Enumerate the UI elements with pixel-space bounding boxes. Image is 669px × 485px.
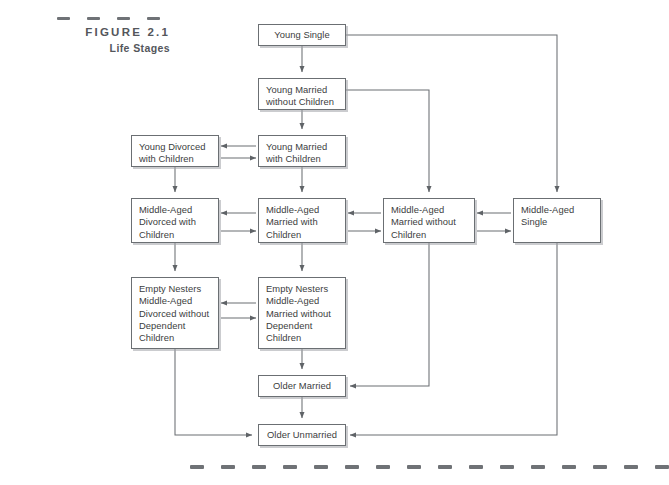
node-label-line: Middle-Aged <box>266 295 338 307</box>
edge-middle-aged-single-to-older-unmarried <box>350 243 557 435</box>
decorative-dash <box>500 465 514 469</box>
decorative-dash <box>283 465 297 469</box>
node-label-line: Divorced with <box>139 216 211 228</box>
decorative-dash <box>407 465 421 469</box>
node-middle-aged-divorced-with-children: Middle-AgedDivorced withChildren <box>131 198 219 243</box>
node-young-married-with-children: Young Marriedwith Children <box>258 135 346 167</box>
node-label-line: Dependent <box>139 320 211 332</box>
node-older-unmarried: Older Unmarried <box>258 424 346 446</box>
node-empty-nesters-divorced: Empty NestersMiddle-AgedDivorced without… <box>131 277 219 349</box>
node-label-line: Children <box>391 229 467 241</box>
node-label-line: with Children <box>139 153 211 165</box>
node-young-married-without-children: Young Marriedwithout Children <box>258 78 346 110</box>
node-label-line: with Children <box>266 153 338 165</box>
node-label-line: Middle-Aged <box>139 204 211 216</box>
node-label: Older Unmarried <box>267 429 337 441</box>
node-label-line: Married without <box>266 308 338 320</box>
node-young-divorced-with-children: Young Divorcedwith Children <box>131 135 219 167</box>
node-label-line: Young Married <box>266 84 338 96</box>
decorative-dash <box>562 465 576 469</box>
node-label-line: Empty Nesters <box>139 283 211 295</box>
node-label-line: Children <box>266 332 338 344</box>
node-label-line: Young Divorced <box>139 141 211 153</box>
decorative-dash <box>655 465 669 469</box>
decorative-dash <box>221 465 235 469</box>
decorative-dash <box>531 465 545 469</box>
decorative-dash <box>376 465 390 469</box>
node-label-line: Married with <box>266 216 338 228</box>
node-label: Young Single <box>274 29 330 41</box>
edge-empty-nesters-divorced-to-older-unmarried <box>175 349 252 435</box>
edge-middle-aged-married-without-children-to-older-married <box>350 243 429 386</box>
node-label-line: Empty Nesters <box>266 283 338 295</box>
node-label-line: Single <box>521 216 593 228</box>
node-label: Older Married <box>273 380 331 392</box>
node-young-single: Young Single <box>258 24 346 46</box>
node-label-line: Children <box>266 229 338 241</box>
node-middle-aged-single: Middle-AgedSingle <box>513 198 601 243</box>
node-middle-aged-married-without-children: Middle-AgedMarried withoutChildren <box>383 198 475 243</box>
node-empty-nesters-married: Empty NestersMiddle-AgedMarried withoutD… <box>258 277 346 349</box>
decorative-dash <box>345 465 359 469</box>
decorative-dashed-rule-bottom <box>190 465 669 469</box>
decorative-dash <box>190 465 204 469</box>
decorative-dash <box>252 465 266 469</box>
node-older-married: Older Married <box>258 375 346 397</box>
decorative-dash <box>624 465 638 469</box>
node-label-line: Middle-Aged <box>266 204 338 216</box>
edge-young-married-without-children-to-middle-aged-married-without-children <box>346 90 429 192</box>
edge-young-single-to-middle-aged-single <box>346 35 557 192</box>
decorative-dash <box>438 465 452 469</box>
node-label-line: Children <box>139 229 211 241</box>
node-label-line: Children <box>139 332 211 344</box>
decorative-dash <box>314 465 328 469</box>
node-label-line: Middle-Aged <box>139 295 211 307</box>
node-label-line: Married without <box>391 216 467 228</box>
node-middle-aged-married-with-children: Middle-AgedMarried withChildren <box>258 198 346 243</box>
node-label-line: Divorced without <box>139 308 211 320</box>
node-label-line: Young Married <box>266 141 338 153</box>
decorative-dash <box>469 465 483 469</box>
node-label-line: Dependent <box>266 320 338 332</box>
node-label-line: without Children <box>266 96 338 108</box>
node-label-line: Middle-Aged <box>521 204 593 216</box>
node-label-line: Middle-Aged <box>391 204 467 216</box>
decorative-dash <box>593 465 607 469</box>
